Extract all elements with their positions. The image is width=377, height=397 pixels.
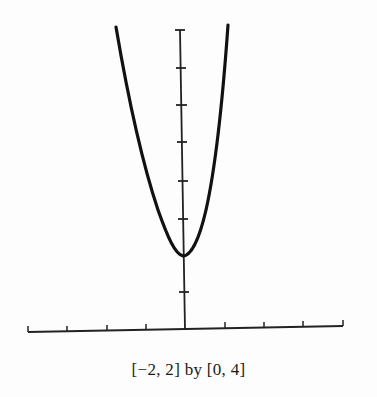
plot-area [0,0,377,397]
graph-figure: [−2, 2] by [0, 4] [0,0,377,397]
window-caption: [−2, 2] by [0, 4] [0,360,377,380]
parabola-curve [116,25,228,256]
y-axis [175,30,189,330]
